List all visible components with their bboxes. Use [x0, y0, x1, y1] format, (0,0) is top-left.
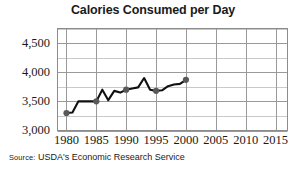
y-tick-label: 4,000: [0, 65, 50, 80]
y-tick-label: 3,000: [0, 123, 50, 138]
x-tick-label: 2015: [259, 133, 293, 148]
y-tick-label: 4,500: [0, 36, 50, 51]
y-tick-label: 3,500: [0, 94, 50, 109]
data-point-marker: [93, 98, 99, 104]
source-label: Source:: [9, 153, 36, 162]
chart-figure: Calories Consumed per Day 3,0003,5004,00…: [0, 0, 306, 170]
data-point-marker: [153, 88, 159, 94]
data-point-marker: [183, 77, 189, 83]
source-note: Source: USDA's Economic Research Service: [9, 152, 185, 162]
source-text: USDA's Economic Research Service: [38, 152, 185, 162]
data-point-marker: [123, 87, 129, 93]
data-point-marker: [63, 110, 69, 116]
